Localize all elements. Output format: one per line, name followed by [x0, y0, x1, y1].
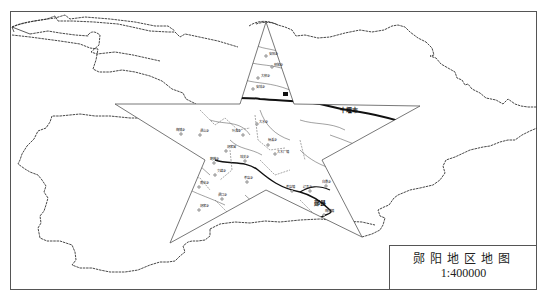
svg-text:叶滩乡: 叶滩乡	[232, 128, 241, 133]
svg-text:郧县: 郧县	[313, 199, 326, 207]
boundary-south-east	[362, 128, 537, 237]
svg-text:辽瓦乡: 辽瓦乡	[303, 184, 312, 189]
svg-text:大木厂镇: 大木厂镇	[277, 149, 290, 154]
svg-text:城关乡: 城关乡	[240, 154, 249, 159]
region-boundary	[12, 15, 278, 61]
svg-text:谭口乡: 谭口乡	[218, 192, 227, 197]
boundary-north-east	[256, 22, 537, 107]
svg-text:梅铺乡: 梅铺乡	[176, 127, 185, 132]
svg-text:胡家乡: 胡家乡	[200, 203, 209, 208]
region-boundary-north	[12, 27, 30, 34]
svg-text:鲍峡乡: 鲍峡乡	[210, 156, 219, 161]
svg-text:杨溪乡: 杨溪乡	[268, 137, 277, 142]
svg-text:大水乡: 大水乡	[259, 119, 268, 124]
svg-text:南化乡: 南化乡	[200, 180, 209, 185]
svg-text:安阳乡: 安阳乡	[269, 51, 278, 56]
svg-text:茶店镇: 茶店镇	[286, 184, 296, 189]
svg-text:安城乡: 安城乡	[256, 84, 265, 89]
boundary-west-top	[12, 35, 196, 104]
dam-icon	[283, 92, 288, 96]
svg-text:白桑乡: 白桑乡	[322, 179, 331, 184]
star-inset-outline	[115, 22, 420, 243]
map-scale: 1:400000	[390, 266, 537, 280]
svg-text:文峰乡: 文峰乡	[217, 168, 226, 173]
map-title: 郧阳地区地图	[390, 252, 537, 266]
svg-text:大柳乡: 大柳乡	[261, 73, 270, 78]
map-legend: 郧阳地区地图 1:400000	[389, 245, 537, 290]
svg-text:梅铺镇: 梅铺镇	[325, 208, 335, 213]
svg-text:谭山乡: 谭山乡	[200, 128, 209, 133]
svg-text:柳陂乡: 柳陂乡	[274, 62, 283, 67]
svg-text:十堰市: 十堰市	[340, 106, 358, 114]
svg-text:茶店乡: 茶店乡	[244, 175, 253, 180]
svg-text:胡家营: 胡家营	[227, 144, 236, 149]
